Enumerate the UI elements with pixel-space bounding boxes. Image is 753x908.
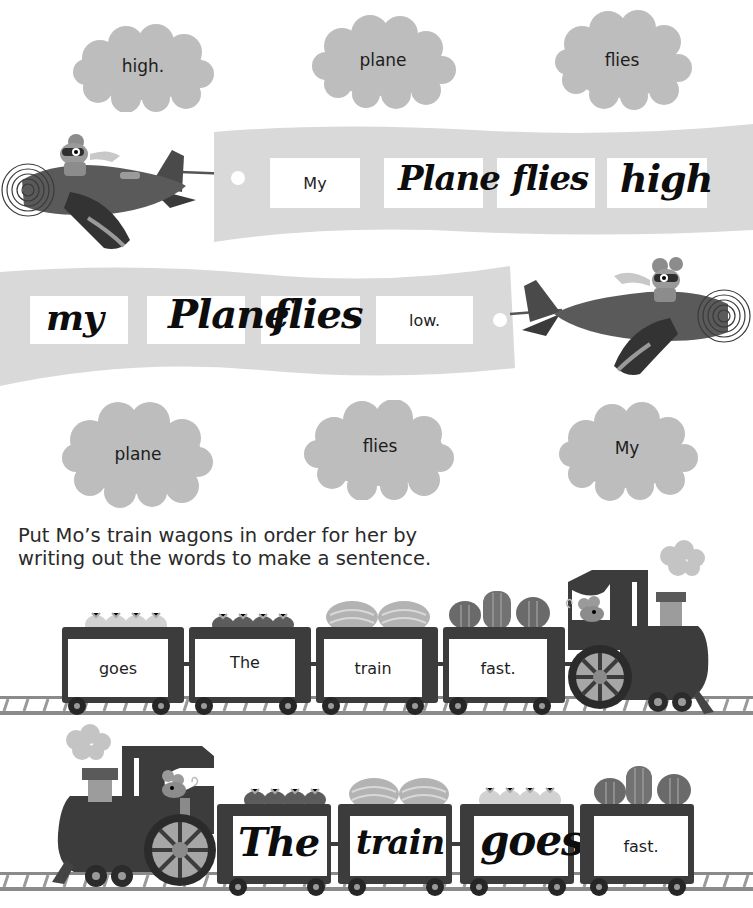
wagon-word-panel: The xyxy=(195,639,295,697)
wagon-word: train xyxy=(324,659,422,678)
wheel-icon xyxy=(590,878,608,896)
plane-icon xyxy=(0,128,240,256)
instruction-line-1: Put Mo’s train wagons in order for her b… xyxy=(18,524,431,547)
handwritten-answer: Plane xyxy=(398,158,500,198)
train1-wagon-4: fast. xyxy=(443,595,567,720)
word-cloud-high: high. xyxy=(68,22,218,112)
wheel-icon xyxy=(406,697,424,715)
cloud-word: flies xyxy=(300,436,460,456)
printed-word: My xyxy=(270,174,360,193)
train1-wagon-3: train xyxy=(316,595,440,720)
wagon-word-panel: goes xyxy=(68,639,168,697)
banner1-slot-1[interactable]: My xyxy=(270,158,360,208)
word-cloud-plane: plane xyxy=(58,400,218,508)
wheel-icon xyxy=(533,697,551,715)
plane-right-illustration xyxy=(500,252,753,382)
handwritten-answer: goes xyxy=(480,816,584,865)
handwritten-answer: my xyxy=(46,296,103,338)
handwritten-answer: Plane xyxy=(168,290,289,337)
handwritten-answer: flies xyxy=(512,158,588,198)
wheel-icon xyxy=(322,697,340,715)
train2-wagon-4: fast. xyxy=(580,770,696,898)
handwritten-answer: high xyxy=(620,156,712,201)
wagon-word-panel: train xyxy=(324,639,422,697)
instruction-line-2: writing out the words to make a sentence… xyxy=(18,547,431,570)
cloud-word: high. xyxy=(68,56,218,76)
train2-engine xyxy=(30,724,230,899)
word-cloud-flies: flies xyxy=(300,400,460,500)
wheel-icon xyxy=(548,878,566,896)
printed-word: low. xyxy=(376,311,473,330)
handwritten-answer: The xyxy=(238,818,319,865)
marrows-cargo-icon xyxy=(443,583,567,628)
wheel-icon xyxy=(348,878,366,896)
wagon-word: fast. xyxy=(449,659,547,678)
cloud-word: flies xyxy=(552,50,692,70)
locomotive-icon xyxy=(30,724,230,899)
plane-icon xyxy=(500,252,753,382)
plane-left-illustration xyxy=(0,128,240,256)
train1-wagon-2: The xyxy=(189,595,313,720)
melons-cargo-icon xyxy=(316,587,440,632)
banner2-slot-4[interactable]: low. xyxy=(376,296,473,344)
cloud-word: My xyxy=(556,438,698,458)
wagon-word: The xyxy=(195,653,295,672)
marrows-cargo-icon xyxy=(580,760,696,805)
activity2-instruction: Put Mo’s train wagons in order for her b… xyxy=(18,524,431,570)
wagon-word: goes xyxy=(68,659,168,678)
locomotive-icon xyxy=(560,540,753,720)
train1-engine xyxy=(560,540,753,720)
wheel-icon xyxy=(470,878,488,896)
handwritten-answer: train xyxy=(356,822,444,862)
handwritten-answer: flies xyxy=(272,290,363,337)
wagon-word-panel: fast. xyxy=(594,816,688,876)
wheel-icon xyxy=(668,878,686,896)
word-cloud-flies: flies xyxy=(552,10,692,110)
word-cloud-my: My xyxy=(556,402,698,502)
cloud-word: plane xyxy=(308,50,458,70)
wagon-word: fast. xyxy=(594,837,688,856)
wheel-icon xyxy=(68,697,86,715)
wheel-icon xyxy=(195,697,213,715)
wheel-icon xyxy=(152,697,170,715)
wagon-word-panel: fast. xyxy=(449,639,547,697)
wheel-icon xyxy=(307,878,325,896)
melons-cargo-icon xyxy=(338,764,454,809)
train1-wagon-1: goes xyxy=(62,595,186,720)
wheel-icon xyxy=(229,878,247,896)
wheel-icon xyxy=(426,878,444,896)
wheel-icon xyxy=(449,697,467,715)
wheel-icon xyxy=(279,697,297,715)
word-cloud-plane: plane xyxy=(308,14,458,109)
cloud-word: plane xyxy=(58,444,218,464)
